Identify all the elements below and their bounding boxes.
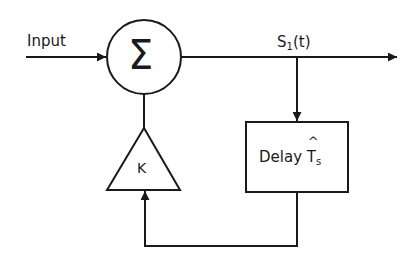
delay-symbol: ^Ts (307, 148, 321, 167)
delay-text: Delay (259, 148, 302, 166)
output-signal-name: S (277, 33, 287, 51)
feedback-path-arrow (145, 191, 297, 246)
hat-accent: ^ (308, 134, 319, 149)
input-label: Input (27, 32, 66, 50)
gain-block (107, 128, 180, 190)
delay-symbol-subscript: s (316, 156, 321, 167)
delay-symbol-letter: T (307, 148, 316, 166)
delay-label: Delay ^Ts (259, 148, 321, 167)
output-signal-argument: (t) (293, 33, 311, 51)
output-signal-label: S1(t) (277, 33, 311, 52)
sigma-symbol: Σ (128, 33, 153, 77)
gain-label: K (137, 160, 146, 176)
